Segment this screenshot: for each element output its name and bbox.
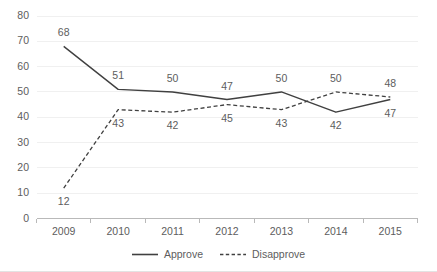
legend-entry-approve[interactable]: Approve — [132, 249, 203, 260]
data-label-approve-2012: 47 — [210, 81, 244, 92]
data-label-approve-2014: 42 — [319, 120, 353, 131]
series-line-disapprove — [64, 92, 391, 188]
data-label-disapprove-2010: 43 — [101, 118, 135, 129]
data-label-disapprove-2012: 45 — [210, 113, 244, 124]
x-axis-ticks — [37, 219, 418, 224]
x-axis-tick-label: 2015 — [363, 226, 417, 237]
legend-swatch-solid-line-icon — [132, 250, 158, 259]
data-label-disapprove-2009: 12 — [47, 196, 81, 207]
x-axis-tick-label: 2011 — [146, 226, 200, 237]
x-axis-tick-label: 2012 — [200, 226, 254, 237]
x-axis-tick-label: 2013 — [254, 226, 308, 237]
data-label-approve-2010: 51 — [101, 70, 135, 81]
y-axis-tick-label: 60 — [5, 61, 29, 72]
data-label-disapprove-2015: 48 — [373, 78, 407, 89]
x-axis-tick-label: 2010 — [91, 226, 145, 237]
data-label-approve-2011: 50 — [156, 73, 190, 84]
chart-legend: ApproveDisapprove — [0, 249, 437, 260]
data-label-approve-2015: 47 — [373, 108, 407, 119]
x-axis-tick-label: 2014 — [309, 226, 363, 237]
y-axis-tick-label: 10 — [5, 187, 29, 198]
y-axis-tick-label: 70 — [5, 35, 29, 46]
y-axis-tick-label: 40 — [5, 111, 29, 122]
legend-label: Approve — [164, 249, 203, 260]
legend-entry-disapprove[interactable]: Disapprove — [220, 249, 305, 260]
y-axis-tick-label: 50 — [5, 86, 29, 97]
data-label-approve-2009: 68 — [47, 27, 81, 38]
legend-label: Disapprove — [252, 249, 305, 260]
y-axis-tick-label: 80 — [5, 10, 29, 21]
x-axis-tick-label: 2009 — [37, 226, 91, 237]
y-axis-tick-label: 30 — [5, 137, 29, 148]
y-axis-tick-label: 20 — [5, 162, 29, 173]
data-label-disapprove-2014: 50 — [319, 73, 353, 84]
y-axis-tick-label: 0 — [5, 213, 29, 224]
data-label-disapprove-2011: 42 — [156, 120, 190, 131]
data-label-approve-2013: 50 — [264, 73, 298, 84]
data-label-disapprove-2013: 43 — [264, 118, 298, 129]
line-chart: 01020304050607080 2009201020112012201320… — [0, 0, 437, 272]
legend-swatch-dashed-line-icon — [220, 250, 246, 259]
